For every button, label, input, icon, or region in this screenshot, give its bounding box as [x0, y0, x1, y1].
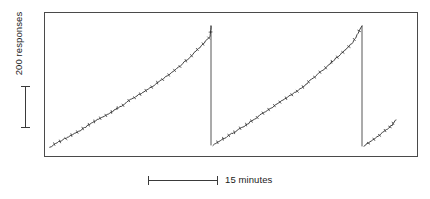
cumulative-segment-2 — [213, 26, 362, 146]
reinforcement-hatch-mark — [88, 123, 89, 126]
reinforcement-hatch-mark — [234, 131, 235, 134]
reinforcement-hatch-layer — [54, 30, 394, 145]
reinforcement-hatch-mark — [223, 137, 224, 140]
cumulative-segment-3 — [364, 120, 396, 146]
x-axis-scale-bar — [148, 180, 218, 181]
cumulative-record-figure: 200 responses 15 minutes — [0, 0, 430, 199]
x-axis-scale-label: 15 minutes — [225, 174, 272, 185]
cumulative-record-plot — [44, 12, 418, 157]
y-axis-scale-label: 200 responses — [13, 0, 24, 104]
trace-layer — [50, 26, 396, 147]
reinforcement-hatch-mark — [71, 134, 72, 137]
reinforcement-hatch-mark — [94, 120, 95, 123]
y-axis-scale-bar — [25, 86, 26, 128]
y-axis-scale-group: 200 responses — [0, 24, 44, 152]
cumulative-segment-1 — [50, 26, 211, 147]
reinforcement-hatch-mark — [111, 111, 112, 114]
